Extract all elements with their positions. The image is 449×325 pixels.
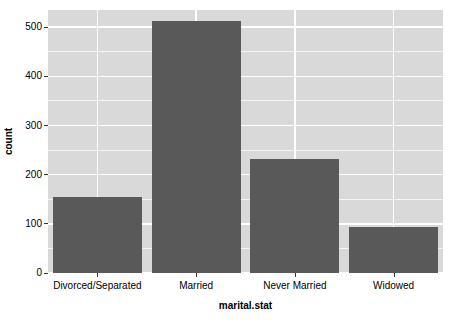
x-axis-tick-mark — [196, 273, 197, 277]
x-axis-tick-label: Divorced/Separated — [53, 280, 141, 291]
y-axis-tick: 100 — [25, 218, 48, 230]
y-axis-tick: 0 — [36, 267, 48, 279]
gridline-major — [48, 174, 443, 176]
y-axis-tick-label: 500 — [25, 21, 42, 33]
gridline-major — [48, 76, 443, 78]
gridline-minor — [48, 100, 443, 101]
y-axis-tick-label: 300 — [25, 120, 42, 132]
bar — [349, 227, 438, 273]
y-axis-tick-label: 100 — [25, 218, 42, 230]
x-axis-tick-mark — [97, 273, 98, 277]
y-axis-tick-label: 400 — [25, 70, 42, 82]
gridline-minor — [48, 150, 443, 151]
y-axis-tick: 200 — [25, 169, 48, 181]
y-axis-tick: 500 — [25, 21, 48, 33]
x-axis-tick-label: Married — [179, 280, 213, 291]
x-axis-tick-label: Never Married — [263, 280, 326, 291]
x-axis-ticks — [48, 273, 443, 279]
bar — [53, 197, 142, 273]
x-axis-tick-label: Widowed — [373, 280, 414, 291]
bar-chart: count 0100200300400500 Divorced/Separate… — [0, 0, 449, 325]
y-axis-title-label: count — [4, 128, 15, 155]
gridline-major — [48, 26, 443, 28]
y-axis-tick: 400 — [25, 70, 48, 82]
x-axis-tick-mark — [295, 273, 296, 277]
gridline-major — [48, 125, 443, 127]
x-axis-tick-mark — [394, 273, 395, 277]
y-axis-title: count — [0, 0, 18, 283]
gridline-minor — [48, 51, 443, 52]
plot-panel — [48, 10, 443, 273]
bar — [152, 21, 241, 273]
y-axis-tick: 300 — [25, 120, 48, 132]
y-axis-tick-label: 200 — [25, 169, 42, 181]
y-axis-ticks: 0100200300400500 — [18, 0, 48, 325]
y-axis-tick-label: 0 — [36, 267, 42, 279]
x-axis-title: marital.stat — [48, 300, 443, 311]
x-axis-labels: Divorced/SeparatedMarriedNever MarriedWi… — [48, 280, 443, 296]
bar — [250, 159, 339, 273]
